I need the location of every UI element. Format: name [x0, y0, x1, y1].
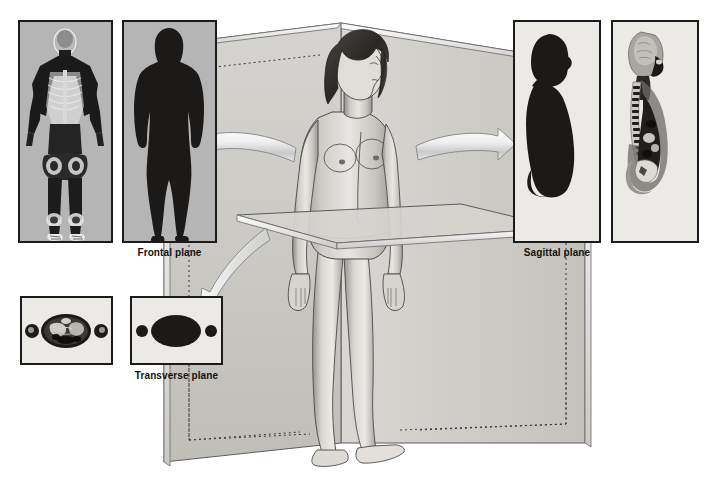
transverse-section-panel [20, 296, 113, 365]
frontal-plane-label: Frontal plane [122, 247, 217, 258]
panel-frame [20, 296, 113, 365]
frontal-radiograph-panel [18, 20, 113, 243]
panel-frame [611, 20, 699, 243]
panel-frame [122, 20, 217, 243]
transverse-plane-label: Transverse plane [119, 370, 234, 381]
transverse-silhouette-panel [130, 296, 223, 365]
sagittal-plane-label: Sagittal plane [513, 247, 601, 258]
body-planes-figure: Frontal plane Transverse plane Sagittal … [0, 0, 709, 487]
panel-frame [513, 20, 601, 243]
frontal-silhouette-panel [122, 20, 217, 243]
panel-frame [130, 296, 223, 365]
panel-frame [18, 20, 113, 243]
sagittal-silhouette-panel [513, 20, 601, 243]
sagittal-mri-panel [611, 20, 699, 243]
